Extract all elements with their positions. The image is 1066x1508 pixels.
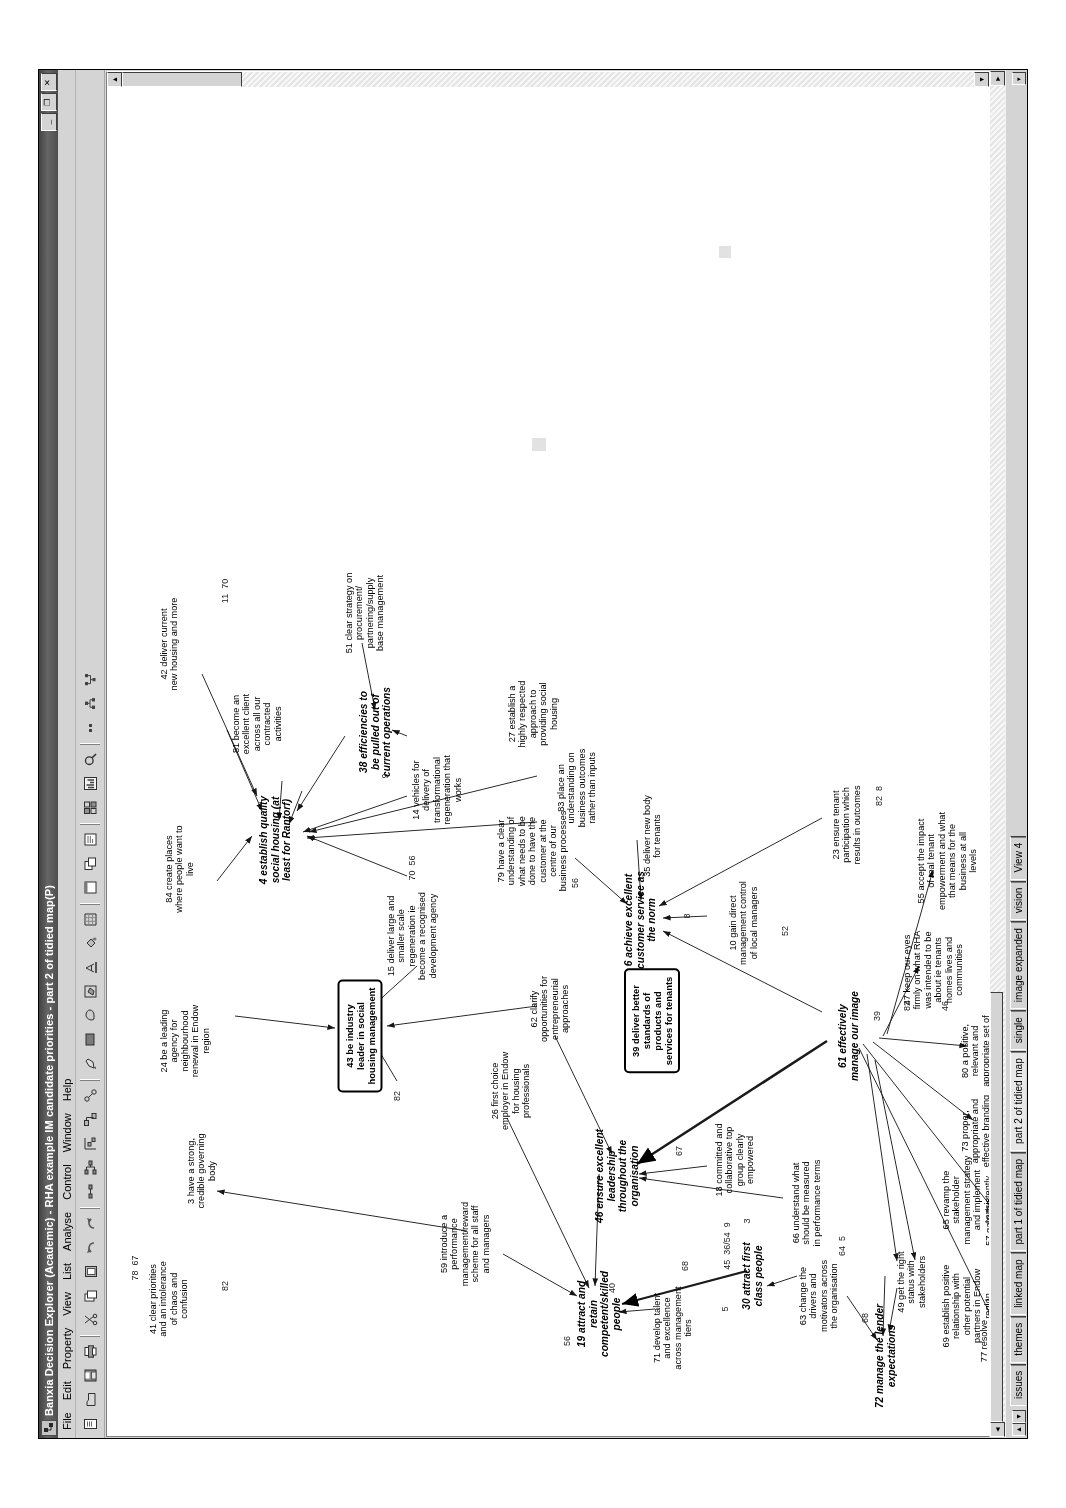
- concept-node[interactable]: 51 clear strategy on procurement/ partne…: [344, 573, 386, 654]
- open-folder-icon[interactable]: [79, 1389, 101, 1411]
- concept-node-goal[interactable]: 4 establish quality social housing (at l…: [258, 796, 293, 884]
- concept-node[interactable]: 59 introduce a performance management/re…: [439, 1202, 491, 1286]
- concept-node[interactable]: 47 keep our eyes firmly on what RHA was …: [902, 931, 964, 1010]
- concept-node[interactable]: 26 first choice employer in Endow for ho…: [490, 1052, 532, 1130]
- concept-node[interactable]: 10 gain direct management control of loc…: [728, 881, 759, 965]
- tab-view-4[interactable]: View 4: [1010, 836, 1026, 880]
- menu-item-property[interactable]: Property: [60, 1322, 74, 1376]
- concept-node[interactable]: 66 understand what should be measured in…: [791, 1160, 822, 1247]
- save-disk-icon[interactable]: [79, 1365, 101, 1387]
- arrange-nodes-icon[interactable]: [79, 1109, 101, 1131]
- concept-node[interactable]: 80 a positive, relevant and appropriate …: [960, 1015, 990, 1087]
- hierarchy-small-icon[interactable]: [79, 693, 101, 715]
- concept-node[interactable]: 49 get the right status with stakeholder…: [896, 1251, 927, 1312]
- redo-arrow-icon[interactable]: [79, 1213, 101, 1235]
- concept-node[interactable]: 62 clarify opportunities for entrepreneu…: [529, 976, 571, 1042]
- link-style-icon[interactable]: [79, 1085, 101, 1107]
- tab-part-2-tidied-map[interactable]: part 2 of tidied map: [1010, 1051, 1026, 1151]
- map-vertical-scrollbar[interactable]: ▲ ▼: [107, 72, 989, 87]
- collapse-map-icon[interactable]: [79, 1181, 101, 1203]
- domain-analysis-icon[interactable]: [79, 773, 101, 795]
- concept-node[interactable]: 41 clear priorities and an intolerance o…: [148, 1261, 190, 1337]
- concept-node-goal[interactable]: 72 manage the lender expectations: [874, 1304, 897, 1408]
- print-icon[interactable]: [79, 1341, 101, 1363]
- menu-item-window[interactable]: Window: [60, 1107, 74, 1158]
- concept-node[interactable]: 35 deliver new body for tenants: [642, 795, 663, 877]
- concept-node[interactable]: 65 revamp the stakeholder management str…: [941, 1156, 990, 1245]
- scroll-thumb-horizontal[interactable]: [990, 992, 1003, 1422]
- tab-image-expanded[interactable]: image expanded: [1010, 921, 1026, 1009]
- concept-node[interactable]: 24 be a leading agency for neighbourhood…: [159, 1005, 211, 1078]
- concept-node-goal[interactable]: 61 effectively manage our image: [837, 991, 860, 1081]
- window-cascade-icon[interactable]: [79, 853, 101, 875]
- concept-node[interactable]: 69 establish positive relationship with …: [941, 1265, 990, 1348]
- expand-map-icon[interactable]: [79, 1157, 101, 1179]
- concept-node[interactable]: 3 have a strong, credible governing body: [186, 1133, 217, 1208]
- tab-issues[interactable]: issues: [1010, 1364, 1026, 1406]
- minimize-button[interactable]: _: [41, 113, 57, 131]
- grid-icon[interactable]: [79, 909, 101, 931]
- move-concept-icon[interactable]: [79, 1029, 101, 1051]
- undo-arrow-icon[interactable]: [79, 1237, 101, 1259]
- tab-themes[interactable]: themes: [1010, 1316, 1026, 1363]
- concept-node[interactable]: 84 create places where people want to li…: [164, 825, 195, 912]
- concept-node[interactable]: 14 vehicles for delivery of transformati…: [411, 755, 463, 824]
- window-tile-icon[interactable]: [79, 877, 101, 899]
- menu-item-analyse[interactable]: Analyse: [60, 1206, 74, 1257]
- concept-node[interactable]: 18 committed and collaborative top group…: [714, 1123, 756, 1196]
- map-horizontal-scrollbar[interactable]: ◄ ►: [990, 71, 1005, 1437]
- cluster-analysis-icon[interactable]: [79, 797, 101, 819]
- report-icon[interactable]: [79, 829, 101, 851]
- style-brush-icon[interactable]: [79, 981, 101, 1003]
- zoom-magnifier-icon[interactable]: [79, 749, 101, 771]
- hand-pan-icon[interactable]: [79, 1005, 101, 1027]
- menu-item-list[interactable]: List: [60, 1257, 74, 1286]
- concept-node[interactable]: 15 deliver large and smaller scale regen…: [386, 892, 438, 980]
- concept-node[interactable]: 81 become an excellent client across all…: [231, 694, 283, 754]
- concept-node-boxed[interactable]: 39 deliver better standards of products …: [624, 969, 680, 1074]
- tidy-map-icon[interactable]: [79, 1133, 101, 1155]
- tab-single[interactable]: single: [1010, 1010, 1026, 1050]
- scroll-up-button[interactable]: ▲: [107, 72, 122, 87]
- tab-scroll-buttons[interactable]: ▲ ▼: [1012, 1410, 1026, 1436]
- highlight-icon[interactable]: [79, 1053, 101, 1075]
- map-view[interactable]: 41 clear priorities and an intolerance o…: [106, 71, 990, 1437]
- scroll-right-button[interactable]: ►: [990, 71, 1005, 86]
- menu-item-view[interactable]: View: [60, 1286, 74, 1322]
- restore-button[interactable]: ❐: [41, 93, 57, 111]
- tab-linked-map[interactable]: linked map: [1010, 1252, 1026, 1314]
- concept-node-goal[interactable]: 38 efficiencies to be pulled out of curr…: [358, 687, 393, 777]
- scroll-track[interactable]: [122, 72, 974, 87]
- menu-item-help[interactable]: Help: [60, 1073, 74, 1108]
- concept-node[interactable]: 83 place an understanding on business ou…: [556, 749, 598, 828]
- copy-icon[interactable]: [79, 1285, 101, 1307]
- menu-item-edit[interactable]: Edit: [60, 1375, 74, 1406]
- tab-vision[interactable]: vision: [1010, 881, 1026, 921]
- new-document-icon[interactable]: [79, 1413, 101, 1435]
- concept-node-goal[interactable]: 30 attract first class people: [741, 1242, 764, 1309]
- concept-node-goal[interactable]: 46 ensure excellent leadership throughou…: [594, 1129, 640, 1223]
- menu-item-control[interactable]: Control: [60, 1158, 74, 1205]
- concept-node[interactable]: 55 accept the impact of real tenant empo…: [916, 812, 978, 910]
- menu-item-file[interactable]: File: [60, 1406, 74, 1436]
- scroll-down-button[interactable]: ▼: [974, 72, 989, 87]
- tab-part-1-tidied-map[interactable]: part 1 of tidied map: [1010, 1152, 1026, 1252]
- map-canvas[interactable]: 41 clear priorities and an intolerance o…: [107, 72, 989, 1436]
- font-colour-icon[interactable]: [79, 957, 101, 979]
- concept-node[interactable]: 27 establish a highly respected approach…: [507, 681, 559, 748]
- bars-small-icon[interactable]: [79, 717, 101, 739]
- scroll-track-horizontal[interactable]: [990, 86, 1005, 1422]
- concept-node[interactable]: 63 change the drivers and motivators acr…: [798, 1260, 840, 1332]
- scroll-left-button[interactable]: ◄: [990, 1422, 1005, 1437]
- concept-node-goal[interactable]: 6 achieve excellent customer service as …: [623, 871, 658, 969]
- network-small-icon[interactable]: [79, 669, 101, 691]
- concept-node-boxed[interactable]: 43 be industry leader in social housing …: [338, 980, 383, 1093]
- cut-scissors-icon[interactable]: [79, 1309, 101, 1331]
- fill-colour-icon[interactable]: [79, 933, 101, 955]
- paste-clipboard-icon[interactable]: [79, 1261, 101, 1283]
- concept-node[interactable]: 71 develop talent and excellence across …: [652, 1286, 694, 1369]
- tab-scroll-down-button[interactable]: ▼: [1012, 1410, 1026, 1423]
- scroll-thumb[interactable]: [122, 72, 242, 87]
- close-button[interactable]: ✕: [41, 73, 57, 91]
- tab-dropdown-button[interactable]: ▾: [1012, 72, 1026, 85]
